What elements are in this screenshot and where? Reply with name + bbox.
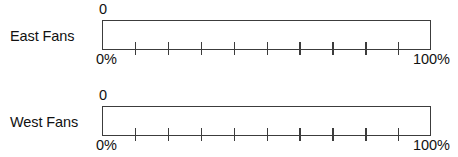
scale-bar-west-fans: 0 0% 100% <box>102 88 431 157</box>
tick-mark <box>332 42 333 55</box>
scale-row-east-fans: East Fans 0 0% 100% <box>0 2 458 72</box>
tick-mark <box>168 42 169 55</box>
tick-group-east-fans <box>102 20 431 50</box>
tick-mark <box>201 128 202 141</box>
tick-group-west-fans <box>102 106 431 136</box>
tick-mark <box>365 128 366 141</box>
row-label-west-fans: West Fans <box>10 114 94 130</box>
scale-row-west-fans: West Fans 0 0% 100% <box>0 88 458 157</box>
tick-mark <box>365 42 366 55</box>
tick-mark <box>168 128 169 141</box>
tick-mark <box>398 128 399 141</box>
start-marker-west-fans: 0 <box>99 88 107 103</box>
tick-mark <box>398 42 399 55</box>
tick-mark <box>234 128 235 141</box>
tick-mark <box>267 128 268 141</box>
tick-mark <box>234 42 235 55</box>
tick-mark <box>267 42 268 55</box>
axis-min-label-west-fans: 0% <box>96 138 117 153</box>
axis-max-label-east-fans: 100% <box>413 52 450 67</box>
row-label-east-fans: East Fans <box>10 28 94 44</box>
tick-mark <box>299 42 300 55</box>
tick-mark <box>135 128 136 141</box>
axis-max-label-west-fans: 100% <box>413 138 450 153</box>
tick-mark <box>135 42 136 55</box>
tick-mark <box>332 128 333 141</box>
scale-bar-east-fans: 0 0% 100% <box>102 2 431 72</box>
axis-min-label-east-fans: 0% <box>96 52 117 67</box>
tick-mark <box>201 42 202 55</box>
tick-mark <box>299 128 300 141</box>
start-marker-east-fans: 0 <box>99 2 107 17</box>
